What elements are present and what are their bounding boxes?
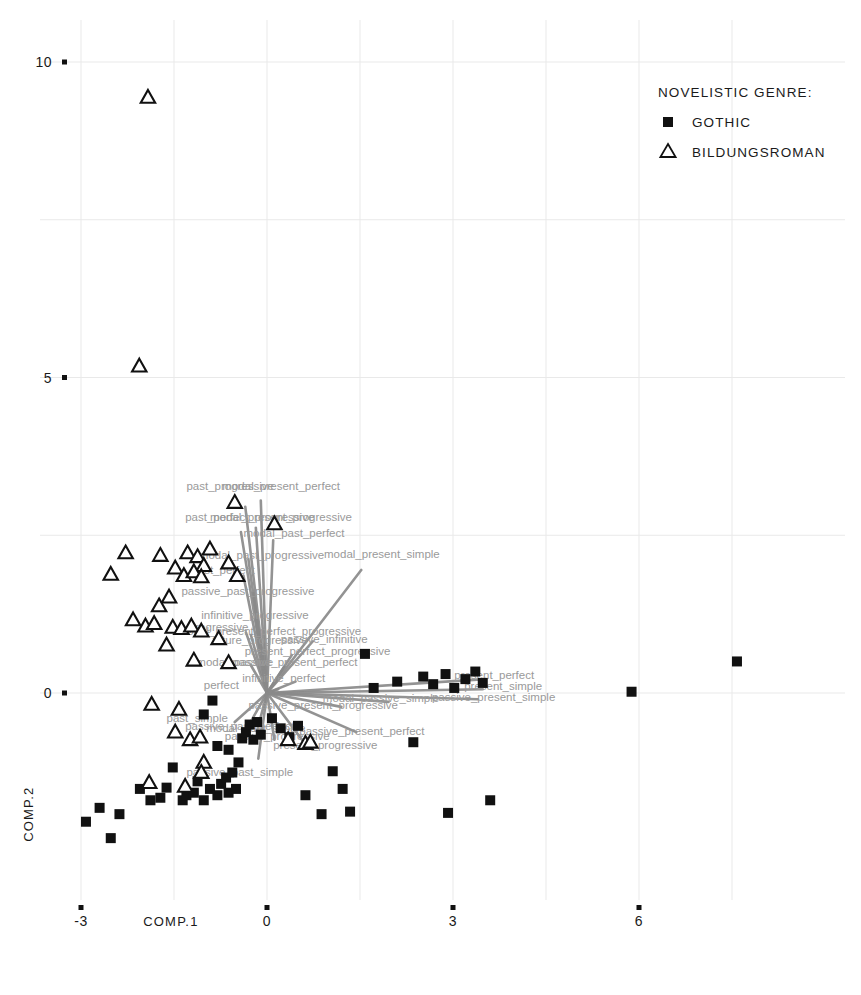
pca-biplot: past_progressivemodal_present_perfectpas… [0,0,861,995]
legend-triangle-icon [660,144,675,157]
legend-label-bildungsroman: BILDUNGSROMAN [692,145,826,160]
legend: NOVELISTIC GENRE: GOTHIC BILDUNGSROMAN [0,0,861,995]
legend-title: NOVELISTIC GENRE: [658,85,812,100]
legend-square-icon [663,117,673,127]
legend-label-gothic: GOTHIC [692,115,751,130]
